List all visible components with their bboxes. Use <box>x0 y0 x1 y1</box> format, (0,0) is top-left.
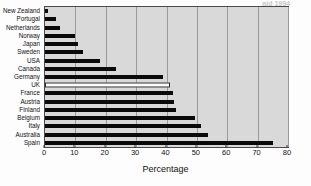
bar-row <box>45 114 288 122</box>
bar-row <box>45 89 288 97</box>
bar-usa <box>45 59 100 63</box>
y-label-spain: Spain <box>24 138 40 145</box>
y-label-australia: Australia <box>16 130 41 137</box>
bar-new-zealand <box>45 9 48 13</box>
y-label-sweden: Sweden <box>17 48 40 55</box>
y-label-italy: Italy <box>28 122 40 129</box>
bar-spain <box>45 141 273 145</box>
bar-netherlands <box>45 26 60 30</box>
x-tick-label-80: 80 <box>283 148 291 158</box>
y-label-netherlands: Netherlands <box>6 23 40 30</box>
bar-belgium <box>45 116 195 120</box>
x-tick-label-40: 40 <box>161 148 169 158</box>
y-label-usa: USA <box>27 56 40 63</box>
bar-row <box>45 32 288 40</box>
bar-canada <box>45 67 116 71</box>
bar-row <box>45 98 288 106</box>
y-label-germany: Germany <box>14 73 40 80</box>
bar-row <box>45 106 288 114</box>
bar-row <box>45 81 288 89</box>
bar-norway <box>45 34 75 38</box>
bar-row <box>45 131 288 139</box>
x-tick-label-60: 60 <box>222 148 230 158</box>
y-label-uk: UK <box>31 81 40 88</box>
bar-row <box>45 122 288 130</box>
bar-row <box>45 15 288 23</box>
bar-uk <box>45 83 170 88</box>
bar-row <box>45 73 288 81</box>
bar-france <box>45 91 173 95</box>
x-tick-label-70: 70 <box>252 148 260 158</box>
bar-row <box>45 56 288 64</box>
x-axis-ticks: 01020304050607080 <box>44 148 289 160</box>
bar-portugal <box>45 17 56 21</box>
bar-row <box>45 23 288 31</box>
x-tick-label-30: 30 <box>131 148 139 158</box>
bar-germany <box>45 75 163 79</box>
gridline <box>288 7 289 147</box>
y-label-canada: Canada <box>18 64 40 71</box>
x-tick-label-0: 0 <box>42 148 46 158</box>
y-label-france: France <box>20 89 40 96</box>
chart-figure: aid 1994 New ZealandPortugalNetherlandsN… <box>0 0 311 186</box>
bar-row <box>45 139 288 147</box>
x-axis-title: Percentage <box>44 164 287 174</box>
y-label-austria: Austria <box>20 97 40 104</box>
bar-australia <box>45 133 208 137</box>
bar-row <box>45 40 288 48</box>
y-label-japan: Japan <box>23 40 40 47</box>
y-label-new-zealand: New Zealand <box>3 7 40 14</box>
y-axis-labels: New ZealandPortugalNetherlandsNorwayJapa… <box>0 6 42 146</box>
bar-row <box>45 65 288 73</box>
bar-japan <box>45 42 78 46</box>
bar-series <box>45 7 288 147</box>
bar-sweden <box>45 50 83 54</box>
x-tick-label-10: 10 <box>70 148 78 158</box>
plot-area <box>44 6 289 148</box>
bar-austria <box>45 100 174 104</box>
y-label-portugal: Portugal <box>17 15 40 22</box>
bar-row <box>45 48 288 56</box>
bar-row <box>45 7 288 15</box>
x-tick-label-20: 20 <box>101 148 109 158</box>
bar-italy <box>45 124 201 128</box>
x-tick-label-50: 50 <box>192 148 200 158</box>
y-label-belgium: Belgium <box>17 114 40 121</box>
y-label-norway: Norway <box>19 31 40 38</box>
bar-finland <box>45 108 176 112</box>
y-label-finland: Finland <box>19 105 40 112</box>
